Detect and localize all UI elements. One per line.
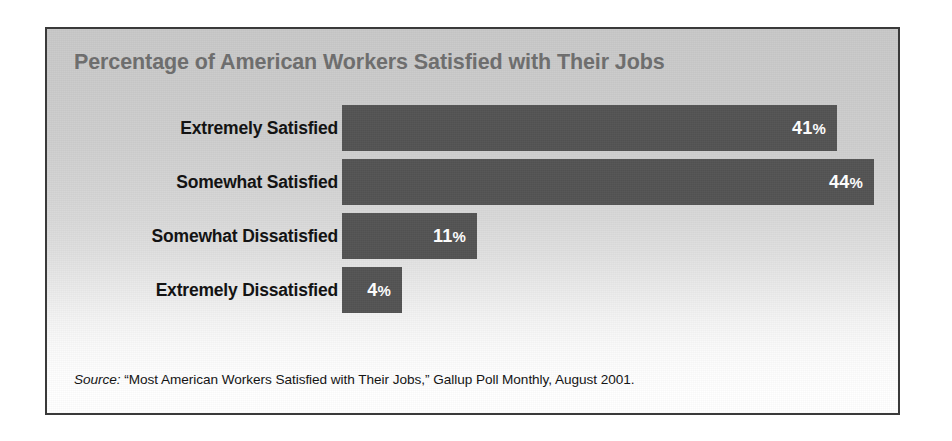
bar-value-label: 11% [433,226,466,247]
bar-value-number: 11 [433,226,452,246]
bar-value-number: 4 [367,280,377,300]
bar-category-label: Somewhat Dissatisfied [152,226,338,247]
bar-value-label: 41% [792,118,826,139]
bar-value-percent-sign: % [452,228,466,245]
bar-value-number: 44 [829,172,849,192]
bar-chart-plot-area: Extremely Satisfied 41% Somewhat Satisfi… [47,105,898,321]
bar-value-percent-sign: % [812,120,826,137]
bar-extremely-satisfied: 41% [342,105,837,151]
bar-row: Extremely Dissatisfied 4% [47,267,898,313]
bar-row: Somewhat Dissatisfied 11% [47,213,898,259]
bar-extremely-dissatisfied: 4% [342,267,402,313]
bar-value-label: 4% [367,280,391,301]
chart-title: Percentage of American Workers Satisfied… [74,50,665,75]
bar-category-label: Extremely Dissatisfied [156,280,338,301]
bar-somewhat-dissatisfied: 11% [342,213,477,259]
chart-figure: Percentage of American Workers Satisfied… [45,27,900,415]
bar-value-label: 44% [829,172,863,193]
source-label: Source: [74,372,121,387]
bar-value-number: 41 [792,118,812,138]
bar-somewhat-satisfied: 44% [342,159,874,205]
source-note: Source: “Most American Workers Satisfied… [74,372,876,387]
bar-value-percent-sign: % [849,174,863,191]
bar-category-label: Somewhat Satisfied [176,172,338,193]
source-citation: “Most American Workers Satisfied with Th… [121,372,635,387]
bar-value-percent-sign: % [377,282,391,299]
bar-category-label: Extremely Satisfied [180,118,338,139]
bar-row: Somewhat Satisfied 44% [47,159,898,205]
bar-row: Extremely Satisfied 41% [47,105,898,151]
